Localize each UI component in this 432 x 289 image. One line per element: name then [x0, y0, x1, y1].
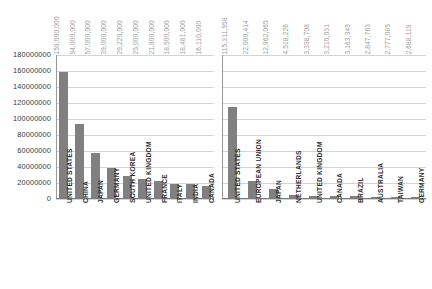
bar-slot	[263, 55, 283, 199]
category-label-slot: BRAZIL	[344, 203, 364, 287]
category-label-slot: EUROPEAN UNION	[242, 203, 262, 287]
category-label: UNITED STATES	[67, 148, 74, 203]
y-axis-tick-label: 0	[47, 195, 51, 202]
value-label-slot: 115,311,958	[222, 2, 242, 55]
category-label: EUROPEAN UNION	[256, 139, 263, 203]
y-axis-tick-label: 180000000	[13, 51, 51, 58]
category-label: SOUTH KOREA	[130, 152, 137, 203]
category-label: INDIA	[193, 184, 200, 203]
bar-slot	[88, 55, 104, 199]
value-label-slot: 4,518,226	[283, 2, 303, 55]
category-label: UNITED KINGDOM	[146, 141, 153, 203]
category-label: AUSTRALIA	[378, 163, 385, 203]
category-label: GERMANY	[419, 168, 426, 203]
bar-value-label: 159,000,000	[54, 17, 61, 55]
bar-value-label: 25,000,000	[133, 20, 140, 55]
value-label-slot: 22,000,414	[242, 2, 262, 55]
chart-right-bars	[222, 55, 426, 199]
value-label-slot: 2,777,085	[385, 2, 405, 55]
category-label: UNITED KINGDOM	[317, 141, 324, 203]
category-label: CANADA	[209, 173, 216, 203]
category-label-slot: CANADA	[198, 203, 214, 287]
value-label-slot: 3,210,031	[324, 2, 344, 55]
category-label: JAPAN	[98, 180, 105, 203]
y-axis-tick-label: 120000000	[13, 99, 51, 106]
bar-value-label: 94,000,000	[70, 20, 77, 55]
chart-left-value-labels: 159,000,00094,000,00057,000,00039,000,00…	[56, 2, 214, 55]
bar-value-label: 18,500,000	[165, 20, 172, 55]
value-label-slot: 12,962,065	[263, 2, 283, 55]
bar-value-label: 4,518,226	[284, 24, 291, 55]
chart-right: 115,311,95822,000,41412,962,0654,518,226…	[216, 0, 432, 289]
category-label: ITALY	[177, 184, 184, 203]
category-label-slot: FRANCE	[151, 203, 167, 287]
category-label: JAPAN	[276, 180, 283, 203]
bar-slot	[72, 55, 88, 199]
bar-value-label: 21,900,000	[149, 20, 156, 55]
chart-left-category-labels: UNITED STATESCHINAJAPANGERMANYSOUTH KORE…	[56, 203, 214, 287]
chart-left: 159,000,00094,000,00057,000,00039,000,00…	[0, 0, 216, 289]
category-label: CHINA	[83, 181, 90, 203]
y-axis-tick-label: 40000000	[17, 163, 51, 170]
category-label: TAIWAN	[398, 176, 405, 203]
category-label-slot: UNITED STATES	[222, 203, 242, 287]
category-label-slot: JAPAN	[88, 203, 104, 287]
bar-value-label: 18,481,000	[181, 20, 188, 55]
category-label: FRANCE	[162, 174, 169, 203]
bar-value-label: 22,000,414	[243, 20, 250, 55]
chart-left-y-axis: 1800000001600000001400000001200000001000…	[0, 55, 54, 199]
category-label-slot: ITALY	[167, 203, 183, 287]
y-axis-tick-label: 140000000	[13, 83, 51, 90]
category-label-slot: GERMANY	[406, 203, 426, 287]
value-label-slot: 2,688,119	[406, 2, 426, 55]
chart-right-value-labels: 115,311,95822,000,41412,962,0654,518,226…	[222, 2, 426, 55]
category-label: CANADA	[337, 173, 344, 203]
bar-value-label: 2,688,119	[406, 25, 413, 55]
y-axis-tick-label: 20000000	[17, 179, 51, 186]
category-label: GERMANY	[114, 168, 121, 203]
category-label-slot: JAPAN	[263, 203, 283, 287]
bar-value-label: 3,338,708	[304, 24, 311, 55]
bar-value-label: 3,210,031	[325, 24, 332, 55]
bar-value-label: 57,000,000	[86, 20, 93, 55]
category-label-slot: AUSTRALIA	[365, 203, 385, 287]
y-axis-tick-label: 80000000	[17, 131, 51, 138]
category-label-slot: UNITED KINGDOM	[135, 203, 151, 287]
category-label: NETHERLANDS	[296, 150, 303, 203]
category-label-slot: UNITED KINGDOM	[304, 203, 324, 287]
bar-value-label: 3,163,349	[345, 24, 352, 55]
value-label-slot: 16,110,000	[198, 2, 214, 55]
bar-value-label: 2,777,085	[386, 24, 393, 55]
category-label-slot: TAIWAN	[385, 203, 405, 287]
category-label: UNITED STATES	[235, 148, 242, 203]
dual-bar-chart-figure: 159,000,00094,000,00057,000,00039,000,00…	[0, 0, 432, 289]
category-label-slot: UNITED STATES	[56, 203, 72, 287]
bar-value-label: 12,962,065	[263, 20, 270, 55]
category-label-slot: SOUTH KOREA	[119, 203, 135, 287]
category-label-slot: INDIA	[182, 203, 198, 287]
category-label: BRAZIL	[358, 177, 365, 203]
bar-value-label: 29,220,000	[117, 20, 124, 55]
chart-right-category-labels: UNITED STATESEUROPEAN UNIONJAPANNETHERLA…	[222, 203, 426, 287]
category-label-slot: CANADA	[324, 203, 344, 287]
value-label-slot: 2,847,763	[365, 2, 385, 55]
y-axis-tick-label: 100000000	[13, 115, 51, 122]
category-label-slot: GERMANY	[103, 203, 119, 287]
bar-value-label: 115,311,958	[223, 18, 230, 55]
y-axis-tick-label: 60000000	[17, 147, 51, 154]
bar-value-label: 2,847,763	[365, 24, 372, 55]
chart-right-plot-area	[222, 55, 426, 199]
chart-right-x-axis-line	[222, 198, 426, 199]
bar-slot	[167, 55, 183, 199]
bar-value-label: 39,000,000	[102, 20, 109, 55]
value-label-slot: 3,338,708	[304, 2, 324, 55]
bar-slot	[182, 55, 198, 199]
y-axis-tick-label: 160000000	[13, 67, 51, 74]
category-label-slot: CHINA	[72, 203, 88, 287]
value-label-slot: 3,163,349	[344, 2, 364, 55]
category-label-slot: NETHERLANDS	[283, 203, 303, 287]
bar-value-label: 16,110,000	[196, 21, 203, 55]
gridline	[222, 199, 426, 200]
